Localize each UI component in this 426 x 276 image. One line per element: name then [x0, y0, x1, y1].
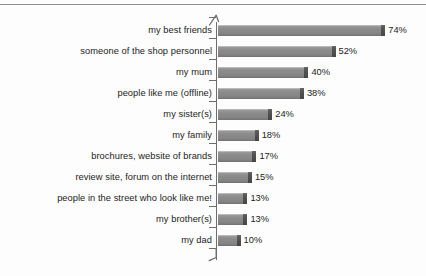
axis-tick: [209, 122, 216, 123]
bar-body: [218, 46, 336, 57]
bar-end-cap: [381, 25, 385, 36]
bar: [218, 109, 272, 120]
category-label: my dad: [181, 230, 212, 251]
axis-tick: [209, 80, 216, 81]
bar: [218, 172, 252, 183]
category-label: my brother(s): [156, 209, 212, 230]
bar-chart-figure: my best friends74%someone of the shop pe…: [0, 0, 426, 276]
category-label: brochures, website of brands: [91, 146, 212, 167]
bar-body: [218, 25, 385, 36]
category-label: people like me (offline): [117, 83, 212, 104]
bar: [218, 88, 304, 99]
bar-end-cap: [304, 67, 308, 78]
bar-value-label: 24%: [275, 104, 294, 125]
axis-tick: [209, 185, 216, 186]
axis-tick: [209, 17, 216, 18]
bar-end-cap: [252, 151, 256, 162]
bar-value-label: 52%: [339, 41, 358, 62]
bar: [218, 46, 336, 57]
bar-value-label: 15%: [255, 167, 274, 188]
bar-value-label: 18%: [262, 125, 281, 146]
bar-body: [218, 88, 304, 99]
axis-tick: [209, 59, 216, 60]
plot-area: my best friends74%someone of the shop pe…: [0, 12, 426, 270]
page-top-rule: [0, 4, 426, 5]
category-label: someone of the shop personnel: [80, 41, 212, 62]
bar-value-label: 10%: [244, 230, 263, 251]
bar-body: [218, 172, 252, 183]
bar: [218, 25, 385, 36]
bar: [218, 193, 247, 204]
bar-body: [218, 130, 259, 141]
axis-tick: [209, 164, 216, 165]
bar-body: [218, 151, 256, 162]
category-label: my family: [172, 125, 212, 146]
category-label: my sister(s): [163, 104, 212, 125]
category-label: review site, forum on the internet: [75, 167, 212, 188]
bar-end-cap: [243, 214, 247, 225]
axis-tick: [209, 248, 216, 249]
axis-tick: [209, 101, 216, 102]
category-label: my best friends: [148, 20, 212, 41]
bar: [218, 130, 259, 141]
bar-end-cap: [237, 235, 241, 246]
bar: [218, 235, 241, 246]
bar-end-cap: [268, 109, 272, 120]
bar-end-cap: [332, 46, 336, 57]
bar-value-label: 40%: [311, 62, 330, 83]
bar-end-cap: [255, 130, 259, 141]
axis-tick: [209, 206, 216, 207]
bar: [218, 151, 256, 162]
bar-value-label: 13%: [250, 209, 269, 230]
bar: [218, 67, 308, 78]
bar-value-label: 38%: [307, 83, 326, 104]
axis-tick: [209, 227, 216, 228]
bar-value-label: 74%: [388, 20, 407, 41]
bar: [218, 214, 247, 225]
bar-value-label: 17%: [259, 146, 278, 167]
bar-body: [218, 109, 272, 120]
axis-tick: [209, 143, 216, 144]
axis-tick: [209, 38, 216, 39]
bar-end-cap: [300, 88, 304, 99]
category-label: people in the street who look like me!: [57, 188, 212, 209]
bar-end-cap: [243, 193, 247, 204]
category-label: my mum: [176, 62, 212, 83]
bar-body: [218, 67, 308, 78]
bar-end-cap: [248, 172, 252, 183]
bar-value-label: 13%: [250, 188, 269, 209]
